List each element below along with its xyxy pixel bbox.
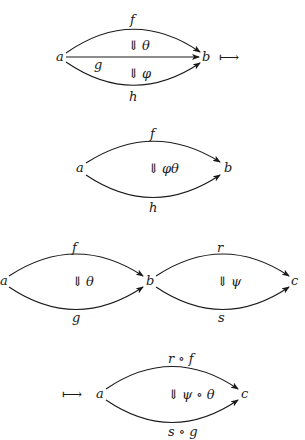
maps-to-arrow-icon: ⟼ <box>219 49 239 65</box>
diagram-vertical-source: a b f g h ⇓ θ ⇓ φ ⟼ <box>56 12 239 104</box>
double-down-arrow-icon: ⇓ <box>148 161 159 176</box>
double-down-arrow-icon: ⇓ <box>128 38 139 53</box>
two-cell-psi: ψ <box>231 274 242 289</box>
two-cell-diagrams: a b f g h ⇓ θ ⇓ φ ⟼ a b f h ⇓ φθ a b c f… <box>0 0 305 440</box>
label-r: r <box>217 240 224 255</box>
object-b: b <box>224 160 232 175</box>
two-cell-phi-theta: φθ <box>162 161 179 176</box>
two-cell-theta: θ <box>142 38 150 53</box>
diagram-horizontal-result: ⟼ a c r ∘ f s ∘ g ⇓ ψ ∘ θ <box>62 351 249 439</box>
label-g: g <box>94 57 102 72</box>
diagram-vertical-result: a b f h ⇓ φθ <box>76 126 232 215</box>
morphism-g-arrow <box>9 287 143 310</box>
object-a: a <box>0 273 8 288</box>
label-f: f <box>129 12 137 27</box>
object-a: a <box>96 386 104 401</box>
label-s-compose-g: s ∘ g <box>168 424 198 439</box>
double-down-arrow-icon: ⇓ <box>168 387 179 402</box>
double-down-arrow-icon: ⇓ <box>72 274 83 289</box>
object-b: b <box>146 273 154 288</box>
morphism-h-arrow <box>86 175 220 198</box>
morphism-r-compose-f-arrow <box>106 367 238 390</box>
object-c: c <box>241 386 249 401</box>
object-a: a <box>56 49 64 64</box>
morphism-s-arrow <box>156 287 289 310</box>
two-cell-phi: φ <box>142 66 152 81</box>
morphism-f-arrow <box>9 254 143 276</box>
two-cell-theta: θ <box>86 274 94 289</box>
label-h: h <box>129 89 137 104</box>
morphism-r-arrow <box>156 254 289 276</box>
double-down-arrow-icon: ⇓ <box>128 66 139 81</box>
double-down-arrow-icon: ⇓ <box>217 274 228 289</box>
object-a: a <box>76 160 84 175</box>
maps-to-arrow-icon: ⟼ <box>62 386 82 402</box>
label-s: s <box>218 310 225 325</box>
label-f: f <box>149 126 157 141</box>
two-cell-psi-compose-theta: ψ ∘ θ <box>182 387 215 402</box>
morphism-s-compose-g-arrow <box>106 400 238 423</box>
label-r-compose-f: r ∘ f <box>168 351 196 366</box>
morphism-f-arrow <box>86 141 220 163</box>
label-g: g <box>72 310 80 325</box>
object-b: b <box>202 49 210 64</box>
label-f: f <box>71 240 79 255</box>
diagram-horizontal-source: a b c f g r s ⇓ θ ⇓ ψ <box>0 240 299 325</box>
object-c: c <box>291 273 299 288</box>
label-h: h <box>149 200 157 215</box>
